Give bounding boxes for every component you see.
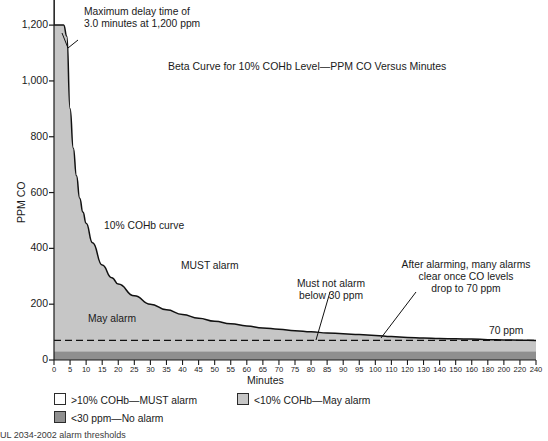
chart-title: Beta Curve for 10% COHb Level—PPM CO Ver… [168, 60, 446, 72]
annotation-after-alarming-line2: clear once CO levels [390, 271, 542, 283]
y-tick-label: 1,200 [4, 18, 48, 30]
legend-label-may-alarm: <10% COHb—May alarm [254, 395, 370, 406]
annotation-may-alarm: May alarm [88, 313, 136, 325]
annotation-max-delay: Maximum delay time of 3.0 minutes at 1,2… [84, 6, 200, 30]
no-alarm-band [54, 352, 536, 360]
y-tick-label: 200 [4, 297, 48, 309]
annotation-max-delay-line2: 3.0 minutes at 1,200 ppm [84, 18, 200, 30]
x-tick-label: 240 [525, 366, 547, 375]
x-axis-label: Minutes [247, 374, 284, 386]
y-tick-label: 1,000 [4, 74, 48, 86]
chart-figure: Beta Curve for 10% COHb Level—PPM CO Ver… [0, 0, 548, 441]
legend-item-no-alarm: <30 ppm—No alarm [54, 411, 163, 424]
y-tick-label: 800 [4, 130, 48, 142]
annotation-curve-label: 10% COHb curve [104, 220, 184, 232]
y-axis-ticks [49, 25, 54, 360]
legend-item-may-alarm: <10% COHb—May alarm [237, 393, 370, 406]
annotation-after-alarming: After alarming, many alarms clear once C… [390, 259, 542, 295]
annotation-must-not-alarm: Must not alarm below 30 ppm [270, 278, 392, 302]
figure-caption: UL 2034-2002 alarm thresholds [0, 430, 126, 440]
annotation-max-delay-line1: Maximum delay time of [84, 6, 200, 18]
y-tick-label: 0 [4, 353, 48, 365]
y-axis-label: PPM CO [15, 167, 27, 237]
annotation-must-alarm: MUST alarm [181, 260, 239, 272]
y-tick-label: 400 [4, 241, 48, 253]
legend-label-must-alarm: >10% COHb—MUST alarm [71, 395, 197, 406]
annotation-must-not-alarm-line2: below 30 ppm [270, 290, 392, 302]
legend-item-must-alarm: >10% COHb—MUST alarm [54, 393, 197, 406]
legend-label-no-alarm: <30 ppm—No alarm [71, 413, 163, 424]
legend-swatch-gray [237, 393, 249, 405]
annotation-seventy-ppm: 70 ppm [489, 325, 523, 337]
annotation-after-alarming-line1: After alarming, many alarms [390, 259, 542, 271]
y-tick-label: 600 [4, 186, 48, 198]
annotation-after-alarming-line3: drop to 70 ppm [390, 283, 542, 295]
legend-swatch-white [54, 393, 66, 405]
legend-swatch-dark [54, 411, 66, 423]
annotation-must-not-alarm-line1: Must not alarm [270, 278, 392, 290]
